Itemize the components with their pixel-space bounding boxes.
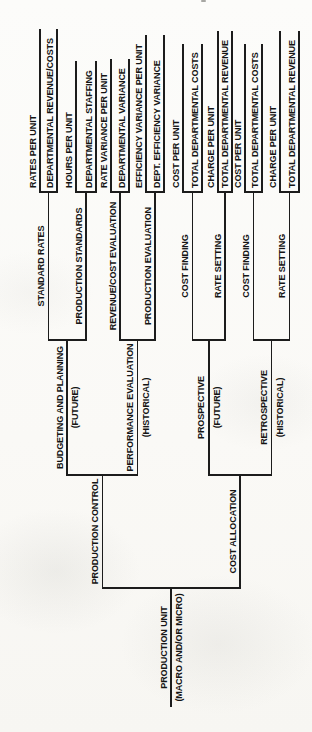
tree-connector — [75, 191, 97, 193]
tree-rule — [85, 191, 87, 340]
tree-connector — [66, 474, 138, 476]
node-label-revenue-cost-evaluation: REVENUE/COST EVALUATION — [108, 193, 118, 339]
tree-rule — [163, 35, 165, 192]
tree-diagram: PRODUCTION UNIT(MACRO AND/OR MICRO)PRODU… — [0, 0, 312, 732]
node-label-production-unit: PRODUCTION UNIT — [159, 589, 169, 706]
node-label-prospective: PROSPECTIVE — [196, 341, 206, 474]
node-label-retrospective: RETROSPECTIVE — [259, 341, 269, 474]
node-label-production-evaluation: PRODUCTION EVALUATION — [143, 193, 153, 339]
node-label-cost-per-unit: COST PER UNIT — [233, 120, 243, 188]
node-label-cost-per-unit: COST PER UNIT — [171, 120, 181, 188]
node-label-dept-efficiency-variance: DEPT. EFFICIENCY VARIANCE — [152, 60, 162, 188]
tree-connector — [110, 191, 130, 193]
tree-rule — [253, 191, 255, 340]
tree-rule — [137, 339, 139, 475]
tree-rule — [48, 191, 50, 340]
tree-rule — [95, 61, 97, 192]
tree-rule — [261, 44, 263, 192]
node-sublabel-historical: (HISTORICAL) — [275, 341, 285, 474]
tree-rule — [56, 29, 58, 192]
scanned-page: PRODUCTION UNIT(MACRO AND/OR MICRO)PRODU… — [0, 0, 312, 732]
node-label-departmental-revenue-costs: DEPARTMENTAL REVENUE/COSTS — [45, 38, 55, 188]
tree-rule — [39, 29, 41, 192]
node-label-hours-per-unit: HOURS PER UNIT — [64, 112, 74, 188]
node-label-budgeting-and-planning: BUDGETING AND PLANNING — [55, 341, 65, 474]
tree-rule — [298, 31, 300, 192]
tree-rule — [192, 191, 194, 340]
node-label-cost-finding: COST FINDING — [241, 193, 251, 339]
node-label-total-departmental-costs: TOTAL DEPARTMENTAL COSTS — [190, 52, 200, 188]
tree-connector — [48, 339, 87, 341]
node-label-total-departmental-revenue: TOTAL DEPARTMENTAL REVENUE — [220, 40, 230, 188]
node-sublabel-historical: (HISTORICAL) — [141, 341, 151, 474]
tree-connector — [39, 191, 58, 193]
tree-rule — [145, 35, 147, 192]
node-label-efficiency-variance-per-unit: EFFICIENCY VARIANCE PER UNIT — [134, 44, 144, 188]
tree-rule — [239, 474, 241, 588]
node-label-charge-per-unit: CHARGE PER UNIT — [268, 106, 278, 188]
node-sublabel-future: (FUTURE) — [212, 341, 222, 474]
tree-rule — [154, 191, 156, 340]
tree-rule — [75, 61, 77, 192]
node-label-production-control: PRODUCTION CONTROL — [90, 476, 100, 587]
node-label-performance-evaluation: PERFORMANCE EVALUATION — [125, 341, 135, 474]
node-sublabel-future: (FUTURE) — [70, 341, 80, 474]
tree-connector — [182, 191, 203, 193]
tree-rule — [128, 59, 130, 192]
node-label-production-standards: PRODUCTION STANDARDS — [74, 193, 84, 339]
tree-connector — [253, 339, 291, 341]
node-label-cost-allocation: COST ALLOCATION — [228, 476, 238, 587]
tree-rule — [201, 44, 203, 192]
tree-rule — [66, 339, 68, 475]
tree-rule — [102, 474, 104, 588]
node-label-rates-per-unit: RATES PER UNIT — [28, 115, 38, 188]
scan-artifact-mark — [201, 0, 206, 2]
node-label-standard-rates: STANDARD RATES — [36, 193, 46, 339]
tree-rule — [279, 31, 281, 192]
tree-connector — [244, 191, 263, 193]
node-label-cost-finding: COST FINDING — [180, 193, 190, 339]
tree-connector — [192, 339, 226, 341]
node-sublabel-macro-and-or-micro: (MACRO AND/OR MICRO) — [174, 589, 184, 706]
node-label-departmental-staffing: DEPARTMENTAL STAFFING — [84, 70, 94, 188]
tree-connector — [145, 191, 165, 193]
tree-connector — [208, 474, 272, 476]
tree-rule — [110, 59, 112, 192]
tree-rule — [182, 44, 184, 192]
node-label-total-departmental-revenue: TOTAL DEPARTMENTAL REVENUE — [287, 40, 297, 188]
tree-connector — [279, 191, 300, 193]
node-label-rate-setting: RATE SETTING — [213, 193, 223, 339]
tree-connector — [102, 587, 241, 589]
tree-rule — [119, 191, 121, 340]
node-label-departmental-variance: DEPARTMENTAL VARIANCE — [117, 68, 127, 188]
tree-rule — [208, 339, 210, 475]
tree-connector — [119, 339, 156, 341]
node-label-rate-variance-per-unit: RATE VARIANCE PER UNIT — [99, 73, 109, 188]
node-label-rate-setting: RATE SETTING — [277, 193, 287, 339]
tree-rule — [244, 44, 246, 192]
tree-rule — [170, 587, 172, 707]
tree-rule — [271, 339, 273, 475]
node-label-charge-per-unit: CHARGE PER UNIT — [206, 106, 216, 188]
node-label-total-departmental-costs: TOTAL DEPARTMENTAL COSTS — [250, 52, 260, 188]
tree-rule — [224, 191, 226, 340]
tree-rule — [289, 191, 291, 340]
